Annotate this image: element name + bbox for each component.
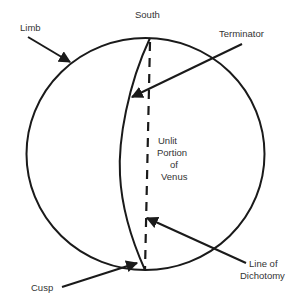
label-dichotomy-line-1: Line of	[249, 258, 278, 269]
label-dichotomy-line-2: Dichotomy	[240, 270, 285, 281]
label-cusp: Cusp	[31, 282, 53, 293]
label-unlit-line-2: Portion	[157, 147, 187, 158]
dichotomy-arrow	[147, 218, 246, 263]
label-terminator: Terminator	[219, 28, 264, 39]
label-unlit-line-3: of	[170, 159, 178, 170]
venus-dichotomy-diagram: South Limb Terminator Unlit Portion of V…	[0, 0, 298, 298]
label-limb: Limb	[20, 22, 41, 33]
label-south: South	[135, 9, 160, 20]
label-unlit-line-1: Unlit	[158, 135, 177, 146]
label-unlit-line-4: Venus	[161, 171, 188, 182]
dichotomy-dashed-line	[145, 42, 150, 270]
limb-arrow	[28, 37, 70, 62]
cusp-arrow	[62, 263, 137, 287]
terminator-arrow	[132, 44, 242, 97]
